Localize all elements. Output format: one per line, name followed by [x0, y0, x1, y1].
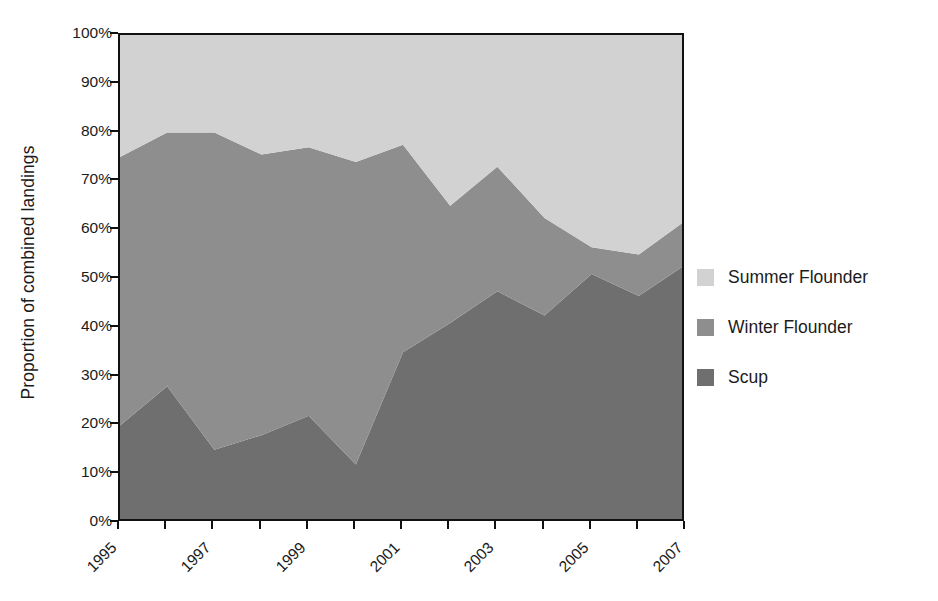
legend-item-label: Summer Flounder — [728, 267, 868, 288]
legend-swatch-icon — [697, 369, 714, 386]
x-tick-label-2007: 2007 — [633, 539, 687, 593]
legend-item-label: Scup — [728, 367, 768, 388]
legend: Summer FlounderWinter FlounderScup — [697, 252, 927, 402]
x-tick-label-1997: 1997 — [161, 539, 215, 593]
x-tick-label-2005: 2005 — [538, 539, 592, 593]
legend-item-winter-flounder[interactable]: Winter Flounder — [697, 302, 927, 352]
legend-item-scup[interactable]: Scup — [697, 352, 927, 402]
x-tick-label-2003: 2003 — [444, 539, 498, 593]
legend-swatch-icon — [697, 269, 714, 286]
legend-item-label: Winter Flounder — [728, 317, 853, 338]
x-tick-label-2001: 2001 — [350, 539, 404, 593]
legend-swatch-icon — [697, 319, 714, 336]
legend-item-summer-flounder[interactable]: Summer Flounder — [697, 252, 927, 302]
x-tick-label-1999: 1999 — [255, 539, 309, 593]
x-tick-label-1995: 1995 — [67, 539, 121, 593]
chart-container: Proportion of combined landings 0%10%20%… — [0, 0, 938, 601]
